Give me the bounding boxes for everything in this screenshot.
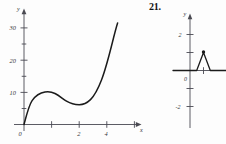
left-x-axis-label: x [139,126,143,133]
left-y-ticklabel-30: 30 [9,24,17,31]
right-y-ticklabel-2: 2 [179,32,182,38]
left-graph-svg: y x 30 20 10 0 2 4 [0,0,150,144]
left-origin-label: 0 [19,130,23,137]
left-y-ticklabel-20: 20 [10,57,17,64]
right-y-axis-label: y [183,10,187,17]
problem-number-label: 21. [149,1,161,13]
right-graph-figure: y 2 -2 0 [170,8,226,136]
right-origin-label: 0 [184,76,187,82]
left-y-axis-arrowhead [22,9,27,15]
left-x-ticklabel-4: 4 [104,130,108,137]
right-y-axis-arrowhead [188,14,193,20]
right-graph-svg: y 2 -2 0 [170,8,226,136]
right-curve [173,53,226,71]
left-y-axis-label: y [16,5,20,12]
left-y-ticklabel-10: 10 [10,89,17,96]
left-curve [24,23,118,125]
left-x-axis [14,122,142,127]
figure-page: y x 30 20 10 0 2 4 21. [0,0,226,144]
right-y-ticklabel-neg2: -2 [176,104,181,110]
left-x-ticklabel-2: 2 [77,130,81,137]
right-curve-peak-dot [202,50,205,53]
left-graph-figure: y x 30 20 10 0 2 4 [0,0,150,144]
left-y-axis [22,9,27,132]
